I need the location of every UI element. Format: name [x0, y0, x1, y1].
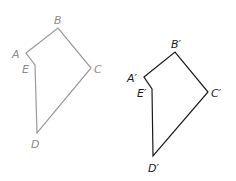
- polygon-ABCDE: [26, 28, 91, 133]
- label-C-prime: C′: [211, 87, 222, 100]
- label-D: D: [31, 138, 39, 151]
- label-B: B: [54, 14, 62, 27]
- label-A-prime: A′: [126, 72, 138, 85]
- label-C: C: [94, 63, 102, 76]
- label-E-prime: E′: [137, 87, 147, 100]
- label-D-prime: D′: [148, 162, 159, 175]
- label-A: A: [11, 48, 20, 61]
- label-B-prime: B′: [171, 38, 182, 51]
- label-E: E: [22, 63, 29, 76]
- diagram-canvas: A B C D E A′ B′ C′ D′ E′: [0, 0, 236, 181]
- polygon-A'B'C'D'E': [144, 52, 208, 156]
